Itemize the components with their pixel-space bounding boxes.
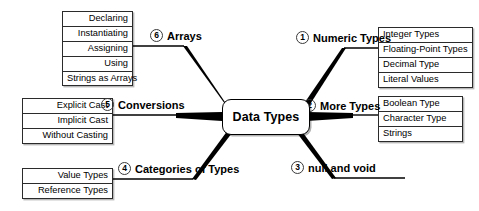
- branch-text-categories: Categories of Types: [135, 163, 239, 175]
- center-node-label: Data Types: [233, 110, 300, 124]
- center-node[interactable]: Data Types: [222, 99, 310, 135]
- list-item[interactable]: Instantiating: [63, 27, 132, 42]
- leaf-stack-arrays: Declaring Instantiating Assigning Using …: [62, 11, 133, 86]
- list-item[interactable]: Integer Types: [379, 28, 472, 43]
- branch-label-more-types[interactable]: 2 More Types: [303, 99, 380, 112]
- branch-label-null-void[interactable]: 3 null and void: [291, 161, 376, 174]
- branch-number-6: 6: [150, 29, 163, 42]
- branch-text-arrays: Arrays: [167, 30, 202, 42]
- branch-number-1: 1: [296, 31, 309, 44]
- leaf-stack-categories: Value Types Reference Types: [22, 168, 113, 199]
- list-item[interactable]: Strings: [379, 127, 462, 141]
- branch-number-4: 4: [118, 162, 131, 175]
- list-item[interactable]: Strings as Arrays: [63, 72, 132, 86]
- leaf-stack-numeric-types: Integer Types Floating-Point Types Decim…: [378, 27, 473, 88]
- list-item[interactable]: Value Types: [23, 169, 112, 184]
- leaf-stack-more-types: Boolean Type Character Type Strings: [378, 96, 463, 142]
- branch-text-conversions: Conversions: [118, 99, 185, 111]
- list-item[interactable]: Declaring: [63, 12, 132, 27]
- branch-label-numeric-types[interactable]: 1 Numeric Types: [296, 31, 391, 44]
- mind-map-diagram: Data Types 6 Arrays 5 Conversions 4 Cate…: [0, 0, 479, 211]
- branch-label-conversions[interactable]: 5 Conversions: [101, 98, 185, 111]
- list-item[interactable]: Character Type: [379, 112, 462, 127]
- list-item[interactable]: Reference Types: [23, 184, 112, 198]
- list-item[interactable]: Decimal Type: [379, 58, 472, 73]
- branch-text-more-types: More Types: [320, 100, 380, 112]
- branch-spike-conversions: [176, 112, 222, 121]
- branch-number-5: 5: [101, 98, 114, 111]
- branch-label-categories[interactable]: 4 Categories of Types: [118, 162, 239, 175]
- list-item[interactable]: Literal Values: [379, 73, 472, 87]
- leaf-stack-conversions: Explicit Cast Implicit Cast Without Cast…: [22, 98, 113, 144]
- list-item[interactable]: Explicit Cast: [23, 99, 112, 114]
- branch-text-null-void: null and void: [308, 162, 376, 174]
- list-item[interactable]: Boolean Type: [379, 97, 462, 112]
- list-item[interactable]: Floating-Point Types: [379, 43, 472, 58]
- list-item[interactable]: Using: [63, 57, 132, 72]
- branch-text-numeric-types: Numeric Types: [313, 32, 391, 44]
- branch-spike-more-types: [307, 112, 353, 121]
- branch-spike-arrays: [183, 46, 229, 108]
- list-item[interactable]: Implicit Cast: [23, 114, 112, 129]
- list-item[interactable]: Assigning: [63, 42, 132, 57]
- list-item[interactable]: Without Casting: [23, 129, 112, 143]
- branch-number-3: 3: [291, 161, 304, 174]
- branch-label-arrays[interactable]: 6 Arrays: [150, 29, 202, 42]
